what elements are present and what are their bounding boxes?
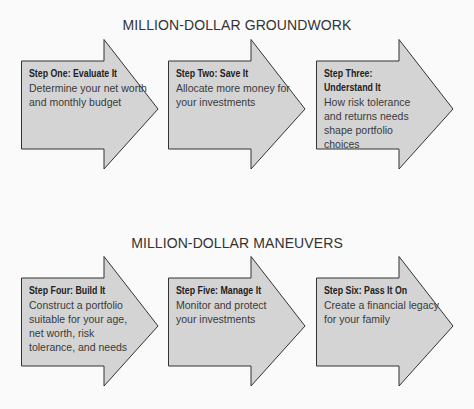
step-description: Construct a portfolio suitable for your …: [29, 298, 141, 354]
step-title: Step One: Evaluate It: [29, 67, 133, 81]
step-title: Step Six: Pass It On: [324, 284, 428, 298]
step-title: Step Two: Save It: [176, 67, 280, 81]
step-title: Step Five: Manage It: [176, 284, 264, 298]
step-arrow-4: Step Four: Build ItConstruct a portfolio…: [21, 256, 161, 388]
step-arrow-3: Step Three: Understand ItHow risk tolera…: [316, 39, 456, 171]
step-description: Create a financial legacy for your famil…: [324, 298, 442, 326]
step-description: Allocate more money for your investments: [176, 81, 294, 109]
section-title-maneuvers: MILLION-DOLLAR MANEUVERS: [0, 235, 474, 251]
step-arrow-6: Step Six: Pass It OnCreate a financial l…: [316, 256, 456, 388]
step-description: How risk tolerance and returns needs sha…: [324, 95, 424, 151]
step-arrow-2: Step Two: Save ItAllocate more money for…: [168, 39, 308, 171]
step-title: Step Three: Understand It: [324, 67, 412, 95]
step-arrow-1: Step One: Evaluate ItDetermine your net …: [21, 39, 161, 171]
step-description: Determine your net worth and monthly bud…: [29, 81, 147, 109]
step-description: Monitor and protect your investments: [176, 298, 276, 326]
step-title: Step Four: Build It: [29, 284, 128, 298]
section-title-groundwork: MILLION-DOLLAR GROUNDWORK: [0, 17, 474, 33]
step-arrow-5: Step Five: Manage ItMonitor and protect …: [168, 256, 308, 388]
